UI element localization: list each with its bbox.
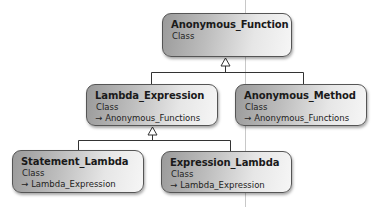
class-title: Anonymous_Method xyxy=(244,89,366,102)
class-node-anonymous-method[interactable]: Anonymous_Method Class →Anonymous_Functi… xyxy=(235,84,367,126)
class-parent: →Lambda_Expression xyxy=(21,179,143,190)
class-kind: Class xyxy=(22,168,143,179)
generalization-arrowhead-icon xyxy=(148,127,157,135)
parent-name: Lambda_Expression xyxy=(31,179,116,189)
class-kind: Class xyxy=(171,169,291,180)
class-kind: Class xyxy=(245,102,366,113)
class-title: Statement_Lambda xyxy=(21,155,143,168)
class-title: Lambda_Expression xyxy=(95,89,217,102)
inherits-arrow-icon: → xyxy=(244,113,251,124)
inherits-arrow-icon: → xyxy=(170,180,177,191)
generalization-arrowhead-icon xyxy=(221,58,230,66)
parent-name: Anonymous_Functions xyxy=(254,113,349,123)
class-kind: Class xyxy=(172,31,291,42)
class-parent: →Anonymous_Functions xyxy=(95,113,217,124)
class-node-anonymous-function[interactable]: Anonymous_Function Class xyxy=(162,13,292,57)
class-parent: →Lambda_Expression xyxy=(170,180,291,191)
class-kind: Class xyxy=(96,102,217,113)
inherits-arrow-icon: → xyxy=(21,179,28,190)
parent-name: Anonymous_Functions xyxy=(105,113,200,123)
class-node-expression-lambda[interactable]: Expression_Lambda Class →Lambda_Expressi… xyxy=(161,151,292,193)
class-parent: →Anonymous_Functions xyxy=(244,113,366,124)
parent-name: Lambda_Expression xyxy=(180,180,265,190)
class-title: Anonymous_Function xyxy=(171,18,291,31)
class-node-lambda-expression[interactable]: Lambda_Expression Class →Anonymous_Funct… xyxy=(86,84,218,126)
class-title: Expression_Lambda xyxy=(170,156,291,169)
inherits-arrow-icon: → xyxy=(95,113,102,124)
class-node-statement-lambda[interactable]: Statement_Lambda Class →Lambda_Expressio… xyxy=(12,150,144,193)
